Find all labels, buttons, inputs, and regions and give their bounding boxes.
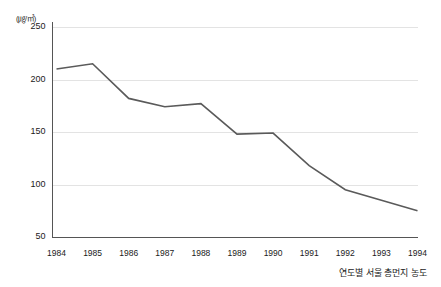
x-tick-label-1985: 1985: [76, 248, 110, 258]
x-tick-label-1990: 1990: [256, 248, 290, 258]
x-tick-label-1986: 1986: [112, 248, 146, 258]
x-tick-label-1984: 1984: [40, 248, 74, 258]
y-tick-label-100: 100: [12, 179, 46, 189]
x-tick-label-1993: 1993: [364, 248, 398, 258]
line-chart-plot-area: [0, 0, 441, 287]
x-tick-label-1992: 1992: [328, 248, 362, 258]
x-tick-label-1988: 1988: [184, 248, 218, 258]
axes-group: [52, 22, 418, 238]
x-tick-label-1991: 1991: [292, 248, 326, 258]
chart-figure: (㎍/㎥) 25020015010050 1984198519861987198…: [0, 0, 441, 287]
data-series-line: [57, 64, 418, 211]
x-tick-label-1994: 1994: [401, 248, 435, 258]
chart-caption: 연도별 서울 총먼지 농도: [339, 266, 427, 279]
x-tick-label-1987: 1987: [148, 248, 182, 258]
y-tick-label-250: 250: [12, 21, 46, 31]
y-tick-label-200: 200: [12, 74, 46, 84]
x-tick-label-1989: 1989: [220, 248, 254, 258]
y-tick-label-50: 50: [12, 231, 46, 241]
y-tick-label-150: 150: [12, 126, 46, 136]
